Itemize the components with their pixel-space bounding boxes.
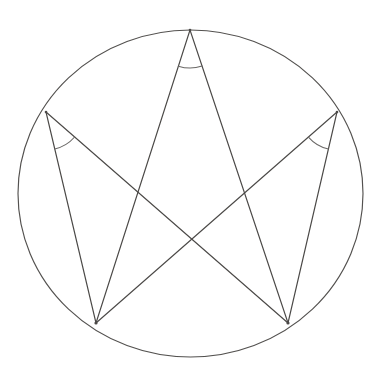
chord-upper-right-to-lower-right [288, 112, 337, 323]
angle-mark-top-vertex [178, 66, 202, 68]
vertex-top [189, 29, 192, 32]
vertex-group [45, 29, 339, 325]
chord-group [46, 30, 337, 323]
geometry-canvas [0, 0, 383, 389]
vertex-lower-left [94, 321, 97, 324]
vertex-upper-left [45, 111, 48, 114]
chord-top-to-lower-right [190, 30, 288, 323]
chord-upper-left-to-lower-left [46, 112, 96, 323]
angle-mark-group [55, 66, 329, 149]
chord-upper-right-to-lower-left [96, 112, 337, 323]
chord-upper-left-to-lower-right [46, 112, 288, 323]
chord-top-to-lower-left [96, 30, 190, 323]
vertex-upper-right [336, 111, 339, 114]
circumscribed-circle [18, 30, 363, 357]
vertex-lower-right [286, 321, 289, 324]
angle-mark-upper-left-vertex [55, 137, 75, 149]
angle-mark-upper-right-vertex [308, 137, 328, 149]
geometry-figure [0, 0, 383, 389]
